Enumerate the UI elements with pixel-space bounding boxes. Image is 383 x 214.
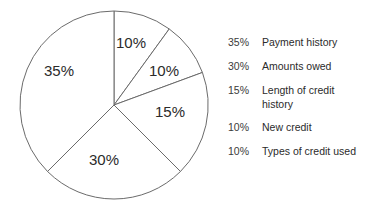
pie-slice-label-length-of-credit-history: 15% [155, 103, 185, 120]
legend-percent: 30% [228, 60, 262, 74]
legend: 35% Payment history 30% Amounts owed 15%… [228, 36, 378, 169]
legend-label: Payment history [262, 36, 378, 50]
pie-slice-label-payment-history: 35% [44, 62, 74, 79]
pie-slice-label-amounts-owed: 30% [89, 151, 119, 168]
legend-item-amounts-owed: 30% Amounts owed [228, 60, 378, 74]
legend-percent: 35% [228, 36, 262, 50]
pie-chart-figure: 10% 10% 15% 30% 35% 35% Payment history … [0, 0, 383, 214]
legend-item-length-of-credit-history: 15% Length of credit history [228, 84, 378, 112]
legend-label: Types of credit used [262, 145, 378, 159]
legend-percent: 10% [228, 145, 262, 159]
legend-percent: 10% [228, 121, 262, 135]
legend-item-payment-history: 35% Payment history [228, 36, 378, 50]
pie-slice-label-types-of-credit-used: 10% [149, 62, 179, 79]
legend-label: New credit [262, 121, 378, 135]
legend-label: Length of credit history [262, 84, 378, 112]
legend-item-new-credit: 10% New credit [228, 121, 378, 135]
legend-item-types-of-credit-used: 10% Types of credit used [228, 145, 378, 159]
legend-percent: 15% [228, 84, 262, 98]
legend-label: Amounts owed [262, 60, 378, 74]
pie-slice-label-new-credit: 10% [116, 34, 146, 51]
